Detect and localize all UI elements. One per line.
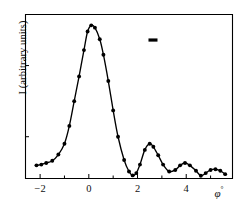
data-point — [89, 23, 93, 27]
data-point — [218, 169, 222, 173]
data-point — [106, 79, 110, 83]
chart-figure: I (arbitrary units) −2 0 2 4 φ° — [0, 0, 238, 209]
data-point — [86, 30, 90, 34]
data-point — [127, 170, 131, 174]
data-point — [116, 135, 120, 139]
data-point — [111, 108, 115, 112]
data-point — [156, 153, 160, 157]
x-tick-label: −2 — [20, 183, 60, 194]
x-axis-ticks — [40, 174, 210, 179]
data-point — [214, 167, 218, 171]
data-point — [138, 163, 142, 167]
data-point — [67, 124, 71, 128]
data-point — [82, 48, 86, 52]
data-point — [134, 171, 138, 175]
data-point — [50, 159, 54, 163]
data-curve — [36, 25, 225, 176]
data-point — [93, 26, 97, 30]
data-point — [148, 142, 152, 146]
data-point — [39, 163, 43, 167]
data-point — [143, 148, 147, 152]
data-point — [122, 158, 126, 162]
data-point — [98, 37, 102, 41]
data-point — [188, 163, 192, 167]
data-point — [56, 153, 60, 157]
data-point — [178, 163, 182, 167]
data-point — [44, 161, 48, 165]
data-point — [72, 99, 76, 103]
degree-symbol: ° — [221, 185, 224, 194]
data-point — [223, 172, 227, 176]
data-point-markers — [35, 23, 228, 177]
x-tick-label: 0 — [69, 183, 109, 194]
data-point — [35, 163, 39, 167]
data-point — [173, 168, 177, 172]
x-tick-label: 2 — [118, 183, 158, 194]
x-tick-label: 4 — [166, 183, 206, 194]
data-point — [167, 170, 171, 174]
data-point — [209, 168, 213, 172]
data-point — [183, 161, 187, 165]
x-axis-label: φ° — [215, 185, 224, 199]
data-point — [199, 174, 203, 178]
data-point — [101, 53, 105, 57]
plot-canvas — [0, 0, 238, 209]
data-point — [194, 169, 198, 173]
data-point — [161, 163, 165, 167]
data-point — [131, 173, 135, 177]
data-point — [151, 145, 155, 149]
data-point — [63, 142, 67, 146]
data-point — [204, 171, 208, 175]
data-point — [77, 74, 81, 78]
